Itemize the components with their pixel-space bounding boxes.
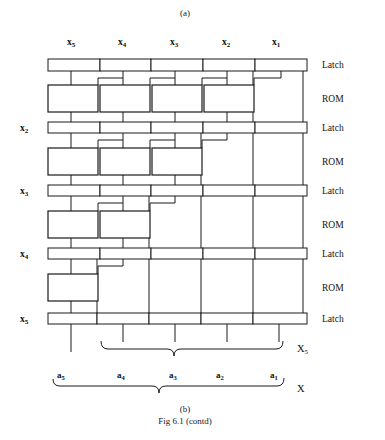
stage-label-rom-2: ROM — [322, 157, 344, 167]
latch-row-2: x2 — [20, 122, 307, 135]
rom-3-box-1 — [48, 211, 98, 238]
brace-label-X: X — [297, 383, 305, 394]
latch-row-4: x4 — [20, 248, 307, 261]
latch-3-cell-1 — [48, 185, 100, 196]
latch-4-cell-3 — [151, 248, 203, 259]
latch-4-cell-1 — [48, 248, 100, 259]
stage-label-latch-2: Latch — [322, 123, 344, 133]
stage-label-latch-3: Latch — [322, 186, 344, 196]
latch-row-1 — [48, 59, 307, 71]
rom-1-box-2 — [100, 85, 150, 112]
latch-1-cell-3 — [151, 59, 203, 71]
latch-1-cell-5-hatched — [255, 59, 307, 71]
rom-2-box-3 — [152, 148, 202, 175]
rom-3-box-2 — [100, 211, 150, 238]
latch-5-cell-4 — [201, 313, 253, 324]
latch-3-cell-3-hatched — [151, 185, 203, 196]
latch-5-cell-2 — [97, 313, 149, 324]
latch-row-5: x5 — [20, 313, 307, 326]
rom-2-box-1 — [48, 148, 98, 175]
latch-2-cell-2 — [100, 122, 151, 133]
rom-4-box-1 — [48, 274, 98, 301]
latch-4-cell-2-hatched — [100, 248, 151, 259]
latch-4-cell-5 — [255, 248, 307, 259]
panel-b-label: (b) — [180, 404, 191, 414]
stage-label-rom-3: ROM — [322, 220, 344, 230]
rom-1-box-4 — [204, 85, 254, 112]
rom-2-box-2 — [100, 148, 150, 175]
latch-2-cell-1 — [48, 122, 100, 133]
latch-3-cell-5 — [255, 185, 307, 196]
stage-labels-column: Latch ROM Latch ROM Latch ROM Latch ROM … — [322, 60, 344, 324]
stage-label-latch-5: Latch — [322, 314, 344, 324]
latch-1-cell-2 — [100, 59, 151, 71]
latch-2-cell-5 — [255, 122, 307, 133]
rom-1-box-3 — [152, 85, 202, 112]
rom-row-2 — [48, 148, 202, 175]
rom-1-box-1 — [48, 85, 98, 112]
latch-3-cell-4 — [203, 185, 255, 196]
latch-5-cell-1-hatched — [48, 313, 97, 324]
figure-6-1-diagram: (a) x5 x4 x3 x2 x1 — [0, 0, 385, 440]
stage-label-rom-1: ROM — [322, 94, 344, 104]
figure-caption: Fig 6.1 (contd) — [158, 416, 212, 426]
latch-2-cell-3 — [151, 122, 203, 133]
latch-1-cell-1 — [48, 59, 100, 71]
latch-2-cell-4-hatched — [203, 122, 255, 133]
stage-label-rom-4: ROM — [322, 283, 344, 293]
stage-label-latch-4: Latch — [322, 249, 344, 259]
latch-1-cell-4 — [203, 59, 255, 71]
latch-5-cell-3 — [149, 313, 201, 324]
latch-4-cell-4 — [203, 248, 255, 259]
panel-a-label: (a) — [180, 8, 190, 18]
latch-row-3: x3 — [20, 185, 307, 198]
latch-5-cell-5 — [253, 313, 307, 324]
rom-row-4 — [48, 274, 98, 301]
latch-3-cell-2 — [100, 185, 151, 196]
stage-label-latch-1: Latch — [322, 60, 344, 70]
